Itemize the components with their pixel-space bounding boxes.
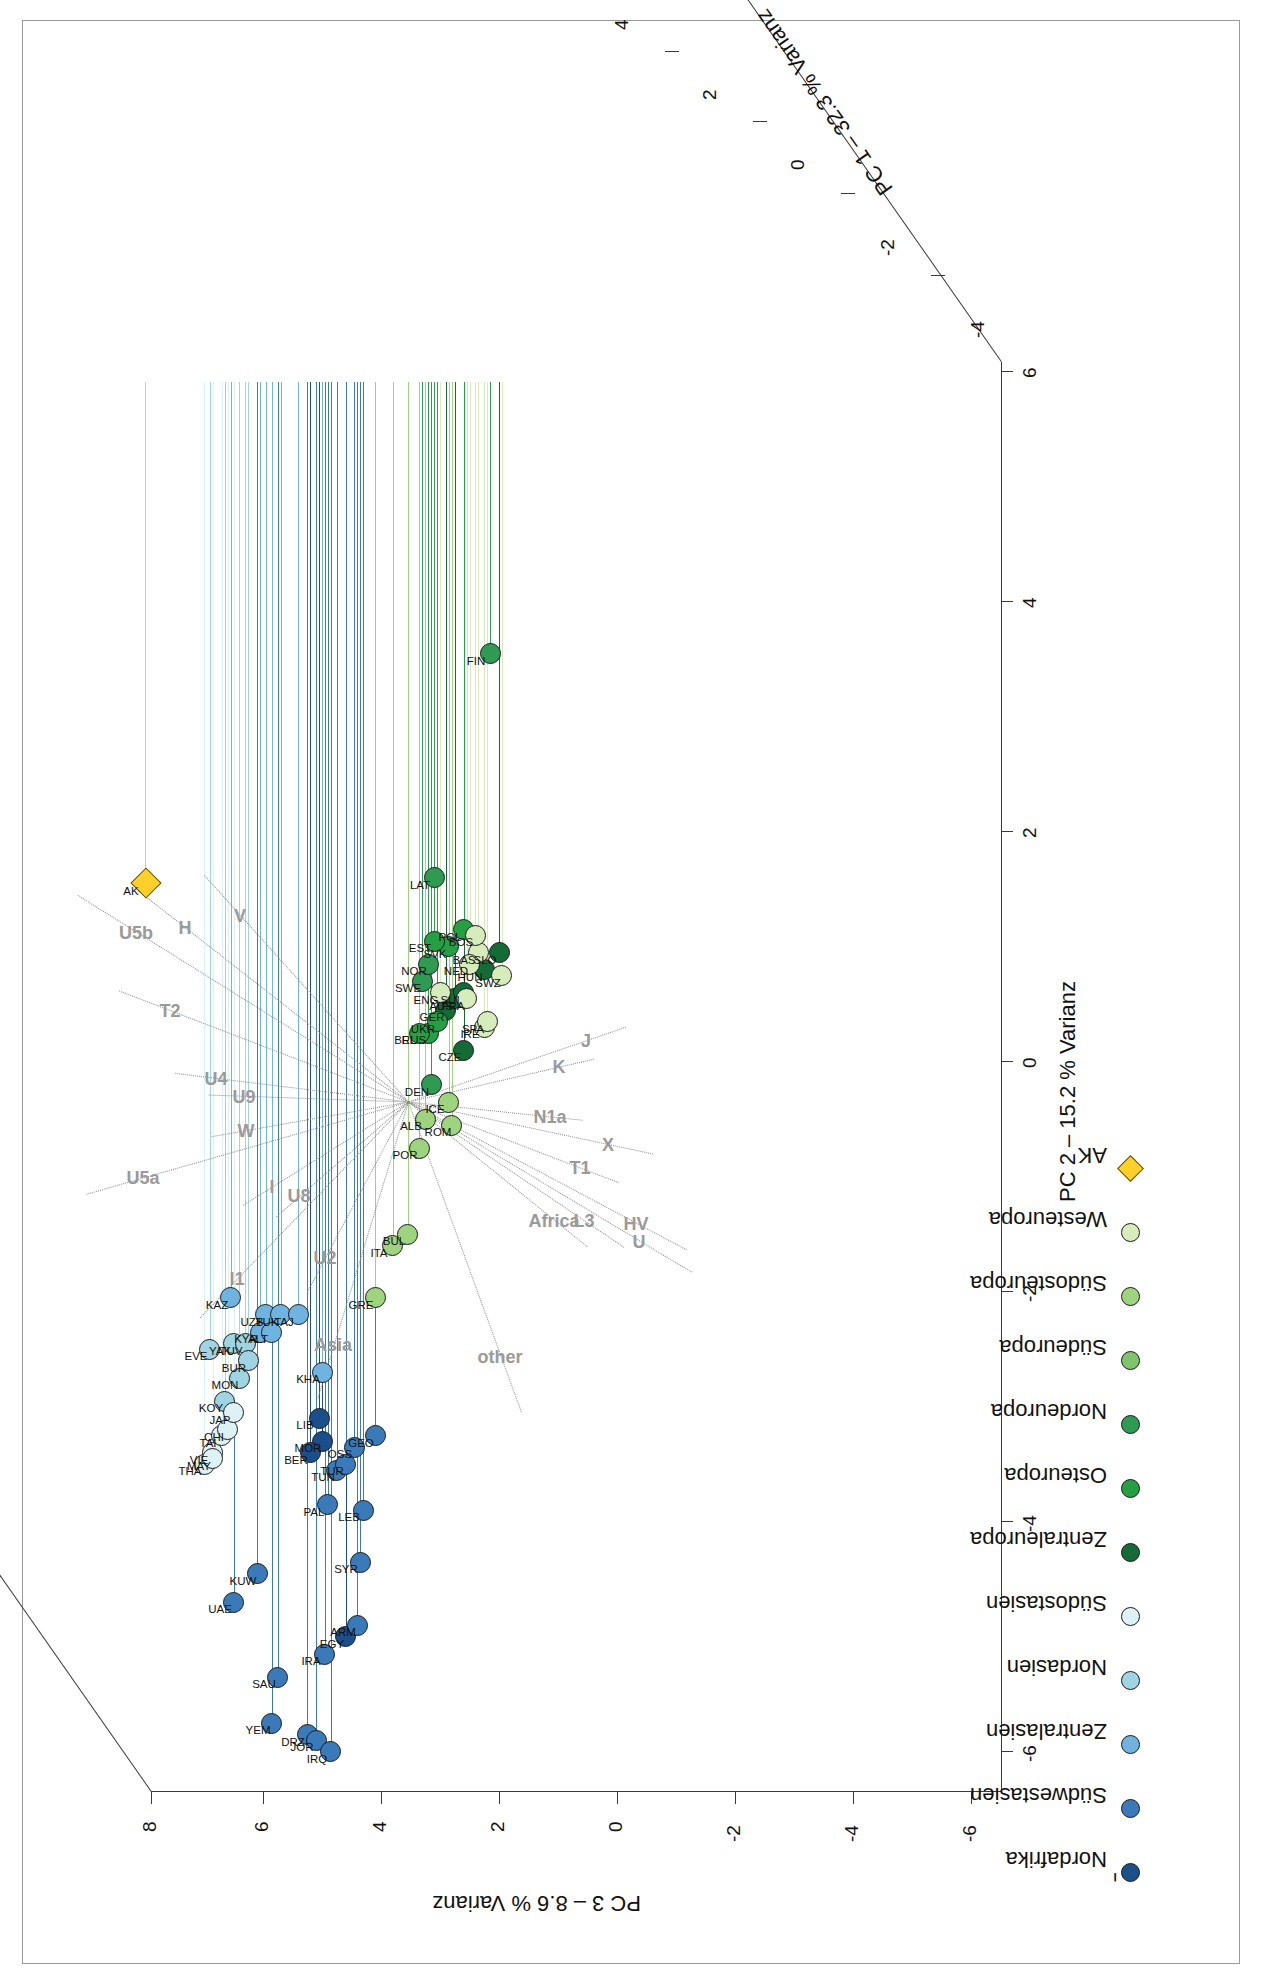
data-point-ray xyxy=(422,382,423,982)
ticklabel-pc3-6: 6 xyxy=(251,1821,273,1832)
data-point-label: GER xyxy=(419,1011,444,1023)
tick-pc1-2 xyxy=(753,121,767,122)
data-point-label: SWE xyxy=(395,983,421,995)
data-point-label: MOR xyxy=(295,1443,322,1455)
data-point-label: CZE xyxy=(438,1052,461,1064)
legend-label: Südeuropa xyxy=(999,1334,1107,1360)
data-point-ray xyxy=(245,382,246,1344)
data-point-label: NED xyxy=(443,965,467,977)
legend-marker[interactable] xyxy=(1121,1671,1140,1690)
ticklabel-pc2-5: 4 xyxy=(1019,597,1041,608)
haplogroup-label: K xyxy=(553,1057,566,1078)
ticklabel-pc2-0: -6 xyxy=(1019,1745,1041,1762)
tick-pc2-4 xyxy=(1001,831,1013,832)
ticklabel-pc3-1: -4 xyxy=(841,1825,863,1842)
data-point-ray xyxy=(434,382,435,878)
data-point-ray xyxy=(231,382,232,1298)
legend-marker[interactable] xyxy=(1121,1479,1140,1498)
tick-pc1-3 xyxy=(665,51,679,52)
data-point-ray xyxy=(248,382,249,1361)
data-point-label: KAZ xyxy=(205,1299,227,1311)
data-point-label: LEB xyxy=(338,1512,360,1524)
data-point-ray xyxy=(490,382,491,654)
data-point-label: BOS xyxy=(449,937,473,949)
haplogroup-label: T1 xyxy=(569,1158,590,1179)
data-point-ray xyxy=(266,382,267,1315)
data-point-label: KUW xyxy=(230,1575,257,1587)
data-point-label: SAU xyxy=(252,1678,276,1690)
haplogroup-label: Asia xyxy=(314,1335,352,1356)
ticklabel-pc1-2: 0 xyxy=(787,159,809,170)
legend-marker[interactable] xyxy=(1121,1351,1140,1370)
ticklabel-pc1-0: -4 xyxy=(967,321,989,338)
figure-page: -6 -4 -2 0 2 4 6 PC 2 – 15.2 % Varianz -… xyxy=(0,0,1265,1984)
data-point-ray xyxy=(325,382,326,1654)
legend-label: Zentralasien xyxy=(986,1718,1107,1744)
legend-marker[interactable] xyxy=(1121,1799,1140,1818)
ticklabel-pc3-2: -2 xyxy=(723,1825,745,1842)
data-point-label: SLO xyxy=(473,954,496,966)
data-point-ray xyxy=(455,382,456,999)
data-point-label: EVE xyxy=(184,1351,207,1363)
data-point-label: MON xyxy=(212,1379,239,1391)
haplogroup-label: H xyxy=(178,918,191,939)
legend-label: Südwestasien xyxy=(970,1782,1107,1808)
legend-marker[interactable] xyxy=(1121,1735,1140,1754)
data-point-ray xyxy=(499,382,500,953)
haplogroup-label: L3 xyxy=(574,1211,595,1232)
haplogroup-label: Africa xyxy=(529,1210,580,1231)
legend-label: Westeuropa xyxy=(989,1206,1107,1232)
data-point-ray xyxy=(478,382,479,953)
data-point-label: EGY xyxy=(319,1638,343,1650)
tick-pc3-6 xyxy=(263,1792,264,1804)
data-point-label: CHI xyxy=(204,1431,224,1443)
data-point-ray xyxy=(234,382,235,1413)
data-point-ray xyxy=(239,382,240,1378)
data-point-ray xyxy=(440,382,441,993)
data-point-ray xyxy=(502,382,503,976)
data-point-ray xyxy=(467,382,468,999)
ticklabel-pc2-4: 2 xyxy=(1019,827,1041,838)
data-point-label: FIN xyxy=(467,655,486,667)
legend-marker[interactable] xyxy=(1121,1415,1140,1434)
data-point-ray xyxy=(298,382,299,1315)
haplogroup-label: U5a xyxy=(127,1167,160,1188)
ticklabel-pc3-7: 8 xyxy=(139,1821,161,1832)
tick-pc1-0 xyxy=(931,275,945,276)
data-point-ray xyxy=(337,382,338,1470)
data-point-label: ALT xyxy=(248,1333,268,1345)
data-point-label: IRA xyxy=(301,1655,320,1667)
haplogroup-label: U5b xyxy=(119,922,153,943)
data-point-ray xyxy=(331,382,332,1752)
legend-marker[interactable] xyxy=(1121,1543,1140,1562)
data-point-ray xyxy=(470,382,471,964)
ticklabel-pc3-0: -6 xyxy=(959,1825,981,1842)
data-point-label: ROM xyxy=(424,1126,451,1138)
legend-marker[interactable] xyxy=(1121,1223,1140,1242)
legend-marker[interactable] xyxy=(1117,1155,1144,1182)
legend-marker[interactable] xyxy=(1121,1863,1140,1882)
data-point-ray xyxy=(307,382,308,1735)
legend-marker[interactable] xyxy=(1121,1287,1140,1306)
tick-pc3-7 xyxy=(151,1792,152,1804)
data-point-label: ALB xyxy=(400,1121,422,1133)
legend-label: Nordafrika xyxy=(1006,1846,1107,1872)
data-point-label: ENG xyxy=(414,994,439,1006)
ticklabel-pc2-6: 6 xyxy=(1019,367,1041,378)
haplogroup-label: I xyxy=(269,1176,274,1197)
data-point-label: JAP xyxy=(209,1414,230,1426)
data-point-ray xyxy=(464,382,465,930)
tick-pc2-0 xyxy=(1001,1751,1013,1752)
data-point-ray xyxy=(446,382,447,1010)
data-point-label: SPA xyxy=(462,1023,484,1035)
data-point-label: LIB xyxy=(296,1420,313,1432)
data-point-label: KOY xyxy=(198,1402,222,1414)
data-point-label: ICE xyxy=(425,1103,444,1115)
ticklabel-pc1-4: 4 xyxy=(611,19,633,30)
tick-pc3-2 xyxy=(735,1792,736,1804)
data-point-ray xyxy=(310,382,311,1453)
data-point-label: ARM xyxy=(331,1627,357,1639)
legend-marker[interactable] xyxy=(1121,1607,1140,1626)
legend-label: Osteuropa xyxy=(1004,1462,1107,1488)
data-point-label: TAJ xyxy=(275,1316,295,1328)
